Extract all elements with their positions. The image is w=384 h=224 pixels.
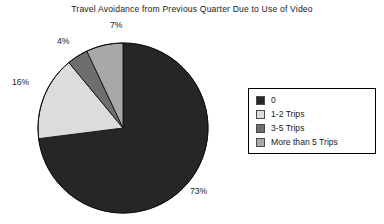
- legend-item-3-5-trips: 3-5 Trips: [256, 121, 370, 135]
- legend-item-0: 0: [256, 93, 370, 107]
- slice-label-more-than-5-trips: 7%: [110, 20, 122, 30]
- legend-item-more-than-5-trips: More than 5 Trips: [256, 135, 370, 149]
- legend-swatch-icon-0: [256, 96, 265, 105]
- legend-label-3-5-trips: 3-5 Trips: [271, 123, 304, 133]
- legend-label-1-2-trips: 1-2 Trips: [271, 109, 304, 119]
- legend-item-1-2-trips: 1-2 Trips: [256, 107, 370, 121]
- slice-label-0: 73%: [190, 186, 207, 196]
- legend-label-0: 0: [271, 95, 276, 105]
- legend-swatch-icon-1: [256, 110, 265, 119]
- slice-label-1-2-trips: 16%: [12, 77, 29, 87]
- slice-label-3-5-trips: 4%: [57, 36, 69, 46]
- chart-legend: 0 1-2 Trips 3-5 Trips More than 5 Trips: [248, 88, 376, 154]
- legend-label-more-than-5-trips: More than 5 Trips: [271, 137, 338, 147]
- legend-swatch-icon-2: [256, 124, 265, 133]
- legend-swatch-icon-3: [256, 138, 265, 147]
- chart-canvas: Travel Avoidance from Previous Quarter D…: [0, 0, 384, 224]
